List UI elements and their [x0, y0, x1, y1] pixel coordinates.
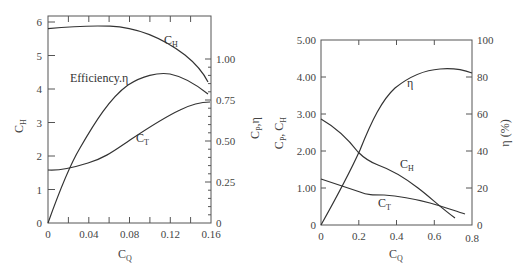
left-efficiency-curve	[48, 73, 208, 223]
left-y-tick-labels: 0 1 2 3 4 5 6	[37, 16, 43, 229]
right-label-ct: CT	[378, 196, 391, 212]
tick-label: 20	[477, 182, 489, 194]
right-right-axis-title: η (%)	[498, 119, 512, 146]
figure: 0 1 2 3 4 5 6 0 0.04 0.08 0.12 0.16 0 0.…	[0, 0, 523, 270]
left-x-axis-title: CQ	[118, 247, 132, 263]
tick-label: 60	[477, 108, 489, 120]
left-y-ticks	[48, 22, 55, 190]
tick-label: 0.08	[120, 228, 140, 240]
tick-label: 0.6	[427, 230, 441, 242]
tick-label: 1.00	[216, 53, 236, 65]
tick-label: 40	[477, 145, 489, 157]
tick-label: 0.12	[161, 228, 180, 240]
right-chart: 0 1.00 2.00 3.00 4.00 5.00 0 0.2 0.4 0.6…	[272, 34, 512, 263]
tick-label: 0.04	[79, 228, 99, 240]
left-y-axis-title: CH	[12, 119, 28, 133]
tick-label: 0	[318, 230, 324, 242]
tick-label: 2.00	[297, 145, 317, 157]
left-ct-curve	[48, 102, 210, 170]
tick-label: 6	[37, 16, 43, 28]
left-right-y-tick-labels: 0 0.25 0.50 0.75 1.00	[216, 53, 236, 229]
right-right-y-tick-labels: 0 20 40 60 80 100	[477, 34, 494, 231]
right-label-ch: CH	[400, 157, 414, 173]
tick-label: 100	[477, 34, 494, 46]
left-label-ct: CT	[136, 131, 149, 147]
tick-label: 3	[37, 117, 43, 129]
left-right-y-ticks	[205, 59, 211, 215]
tick-label: 0.50	[216, 135, 236, 147]
tick-label: 0	[477, 219, 483, 231]
tick-label: 0	[216, 217, 222, 229]
right-y-axis-title: CP, CH	[272, 117, 288, 149]
left-label-ch: CH	[164, 33, 178, 49]
right-x-tick-labels: 0 0.2 0.4 0.6 0.8	[318, 230, 479, 244]
right-x-axis-title: CQ	[389, 247, 403, 263]
left-plot-frame	[48, 16, 211, 223]
tick-label: 1.00	[297, 182, 317, 194]
tick-label: 3.00	[297, 108, 317, 120]
left-label-efficiency: Efficiency.η	[70, 71, 128, 85]
right-y-ticks	[321, 77, 472, 188]
tick-label: 0	[37, 217, 43, 229]
tick-label: 2	[37, 150, 43, 162]
right-eta-curve	[321, 69, 472, 225]
tick-label: 0	[311, 219, 317, 231]
tick-label: 0.2	[352, 230, 366, 242]
right-label-eta: η	[407, 76, 413, 90]
right-y-tick-labels: 0 1.00 2.00 3.00 4.00 5.00	[297, 34, 317, 231]
tick-label: 5.00	[297, 34, 317, 46]
right-x-ticks	[359, 40, 435, 225]
tick-label: 1	[37, 184, 43, 196]
tick-label: 0.8	[465, 232, 479, 244]
right-plot-frame	[321, 40, 472, 225]
tick-label: 80	[477, 71, 489, 83]
tick-label: 0.25	[216, 176, 236, 188]
tick-label: 0.4	[390, 230, 404, 242]
left-right-axis-title: CP,η	[248, 117, 264, 139]
tick-label: 0	[45, 228, 51, 240]
left-x-tick-labels: 0 0.04 0.08 0.12 0.16	[45, 228, 221, 240]
tick-label: 5	[37, 50, 43, 62]
tick-label: 0.75	[216, 94, 236, 106]
left-chart: 0 1 2 3 4 5 6 0 0.04 0.08 0.12 0.16 0 0.…	[12, 16, 264, 263]
tick-label: 4	[37, 83, 43, 95]
tick-label: 4.00	[297, 71, 317, 83]
tick-label: 0.16	[201, 228, 221, 240]
